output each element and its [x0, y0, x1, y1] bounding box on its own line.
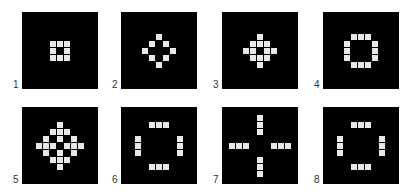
live-cell — [365, 34, 371, 40]
dead-cell — [372, 115, 378, 121]
live-cell — [337, 136, 343, 142]
dead-cell — [250, 171, 256, 177]
dead-cell — [365, 136, 371, 142]
live-cell — [170, 48, 176, 54]
dead-cell — [170, 34, 176, 40]
dead-cell — [163, 136, 169, 142]
dead-cell — [149, 129, 155, 135]
dead-cell — [163, 48, 169, 54]
dead-cell — [372, 62, 378, 68]
dead-cell — [71, 129, 77, 135]
dead-cell — [135, 115, 141, 121]
dead-cell — [135, 164, 141, 170]
dead-cell — [163, 115, 169, 121]
dead-cell — [236, 136, 242, 142]
dead-cell — [149, 143, 155, 149]
live-cell — [365, 164, 371, 170]
dead-cell — [278, 157, 284, 163]
dead-cell — [64, 150, 70, 156]
dead-cell — [344, 171, 350, 177]
dead-cell — [278, 129, 284, 135]
live-cell — [177, 150, 183, 156]
dead-cell — [351, 143, 357, 149]
dead-cell — [142, 55, 148, 61]
panel-label-7: 7 — [213, 175, 219, 185]
dead-cell — [250, 157, 256, 163]
live-cell — [163, 55, 169, 61]
dead-cell — [379, 164, 385, 170]
dead-cell — [243, 122, 249, 128]
dead-cell — [271, 122, 277, 128]
dead-cell — [285, 150, 291, 156]
panel-label-5: 5 — [13, 175, 19, 185]
dead-cell — [372, 164, 378, 170]
dead-cell — [351, 150, 357, 156]
dead-cell — [264, 157, 270, 163]
dead-cell — [177, 122, 183, 128]
dead-cell — [243, 129, 249, 135]
dead-cell — [43, 164, 49, 170]
live-cell — [64, 157, 70, 163]
dead-cell — [50, 136, 56, 142]
live-cell — [344, 55, 350, 61]
dead-cell — [285, 115, 291, 121]
dead-cell — [271, 171, 277, 177]
cell-grid — [135, 115, 183, 177]
dead-cell — [156, 136, 162, 142]
dead-cell — [43, 129, 49, 135]
dead-cell — [344, 164, 350, 170]
dead-cell — [351, 129, 357, 135]
dead-cell — [271, 34, 277, 40]
live-cell — [250, 41, 256, 47]
dead-cell — [229, 150, 235, 156]
live-cell — [57, 55, 63, 61]
dead-cell — [135, 171, 141, 177]
cell-grid — [36, 122, 84, 170]
pattern-panel-6 — [121, 107, 197, 184]
dead-cell — [149, 34, 155, 40]
live-cell — [135, 143, 141, 149]
cell-grid — [243, 34, 277, 68]
dead-cell — [365, 143, 371, 149]
dead-cell — [170, 41, 176, 47]
dead-cell — [135, 129, 141, 135]
panel-label-1: 1 — [13, 80, 19, 90]
live-cell — [278, 143, 284, 149]
dead-cell — [278, 122, 284, 128]
live-cell — [358, 122, 364, 128]
dead-cell — [337, 115, 343, 121]
dead-cell — [264, 115, 270, 121]
live-cell — [337, 143, 343, 149]
dead-cell — [372, 143, 378, 149]
dead-cell — [365, 115, 371, 121]
dead-cell — [142, 150, 148, 156]
pattern-panel-5 — [22, 107, 98, 184]
dead-cell — [264, 164, 270, 170]
dead-cell — [149, 171, 155, 177]
live-cell — [156, 34, 162, 40]
dead-cell — [278, 164, 284, 170]
dead-cell — [142, 122, 148, 128]
dead-cell — [264, 150, 270, 156]
dead-cell — [142, 157, 148, 163]
dead-cell — [50, 150, 56, 156]
live-cell — [57, 150, 63, 156]
live-cell — [372, 48, 378, 54]
pattern-panel-8 — [323, 107, 399, 184]
dead-cell — [271, 41, 277, 47]
live-cell — [71, 150, 77, 156]
live-cell — [372, 55, 378, 61]
dead-cell — [170, 129, 176, 135]
dead-cell — [271, 150, 277, 156]
live-cell — [358, 62, 364, 68]
dead-cell — [156, 55, 162, 61]
dead-cell — [344, 136, 350, 142]
dead-cell — [229, 171, 235, 177]
live-cell — [156, 62, 162, 68]
dead-cell — [170, 157, 176, 163]
dead-cell — [177, 171, 183, 177]
dead-cell — [142, 41, 148, 47]
dead-cell — [243, 171, 249, 177]
dead-cell — [344, 157, 350, 163]
live-cell — [149, 164, 155, 170]
